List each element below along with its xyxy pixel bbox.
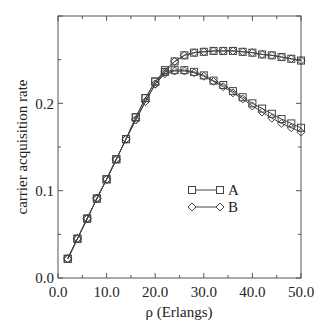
y-tick-labels: 0.0 0.1 0.2: [35, 96, 54, 286]
square-marker-icon: [189, 187, 196, 194]
x-tick-1: 10.0: [93, 284, 119, 300]
x-tick-labels: 0.0 10.0 20.0 30.0 40.0 50.0: [49, 284, 315, 300]
series-line-a-lower: [68, 70, 301, 259]
x-tick-0: 0.0: [49, 284, 68, 300]
square-marker-icon: [217, 187, 224, 194]
series-group: [64, 47, 305, 263]
series-line-b-lower: [68, 71, 301, 259]
legend-label-b: B: [228, 199, 238, 215]
x-tick-4: 40.0: [239, 284, 265, 300]
x-tick-2: 20.0: [142, 284, 168, 300]
x-tick-5: 50.0: [288, 284, 314, 300]
legend-label-a: A: [228, 182, 239, 198]
square-marker-icon: [64, 255, 71, 262]
series-line-b-upper: [68, 51, 301, 259]
legend-item-b: B: [188, 199, 238, 215]
y-tick-0: 0.0: [35, 270, 54, 286]
y-tick-1: 0.1: [35, 183, 54, 199]
x-tick-3: 30.0: [191, 284, 217, 300]
diamond-marker-icon: [216, 203, 224, 211]
y-tick-2: 0.2: [35, 96, 54, 112]
square-marker-icon: [64, 255, 71, 262]
legend: A B: [188, 182, 239, 215]
series-line-a-upper: [68, 51, 301, 259]
y-axis-label: carrier acquisition rate: [14, 79, 30, 214]
legend-item-a: A: [189, 182, 240, 198]
x-axis-label: ρ (Erlangs): [145, 304, 212, 321]
chart: 0.0 10.0 20.0 30.0 40.0 50.0 0.0 0.1 0.2…: [0, 0, 328, 330]
diamond-marker-icon: [188, 203, 196, 211]
